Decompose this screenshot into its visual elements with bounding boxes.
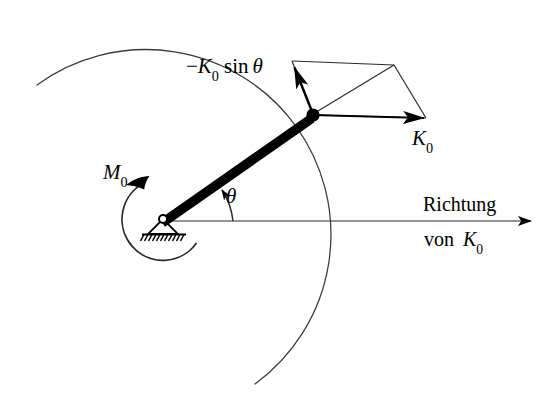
rigid-rod-group — [162, 115, 315, 227]
tip-path-arc — [37, 50, 331, 384]
rod-tip-node-group — [306, 108, 319, 121]
minus-sign: − — [186, 54, 198, 78]
label-k0: K0 — [412, 128, 433, 152]
rigid-rod — [162, 118, 315, 227]
k0-symbol: K — [412, 126, 426, 150]
von-k0-subscript: 0 — [476, 242, 483, 257]
angle-symbol-in-component: θ — [249, 54, 263, 78]
pivot-pin — [159, 215, 167, 223]
m0-symbol: M — [103, 160, 121, 184]
label-minus-k0-sin-theta: −K0sinθ — [186, 56, 263, 80]
parallelogram-right-edge — [394, 65, 426, 118]
label-m0: M0 — [103, 162, 128, 186]
tip-path-arc-group — [37, 50, 331, 384]
label-theta: θ — [226, 186, 236, 207]
mechanics-diagram: −K0sinθ K0 M0 θ Richtung vonK0 — [0, 0, 556, 393]
force-component-subscript: 0 — [212, 68, 219, 84]
parallelogram-top-edge — [292, 61, 394, 65]
label-richtung-line2: vonK0 — [424, 229, 483, 254]
k0-force-vector-group — [313, 115, 424, 118]
von-k0-symbol: K — [454, 228, 476, 250]
k0-force-vector — [313, 115, 424, 118]
parallelogram-diagonal — [313, 65, 394, 114]
force-component-symbol: K — [198, 54, 212, 78]
rod-tip-node — [306, 108, 319, 121]
pin-support-group — [141, 215, 187, 241]
k0-sin-component-vector — [295, 68, 314, 115]
label-richtung-line1: Richtung — [423, 194, 496, 214]
m0-subscript: 0 — [121, 174, 128, 190]
sin-function: sin — [219, 54, 249, 78]
k0-subscript: 0 — [426, 140, 433, 156]
k0-sin-component-vector-group — [295, 68, 314, 115]
rigid-rod-line — [163, 115, 313, 220]
von-word: von — [424, 228, 454, 250]
